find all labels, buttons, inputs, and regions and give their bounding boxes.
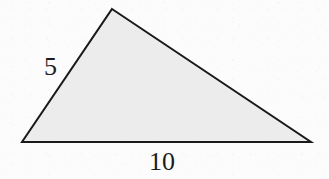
- triangle-shape: [22, 9, 311, 142]
- figure-canvas: 5 10: [0, 0, 329, 179]
- side-length-label-base: 10: [149, 149, 175, 175]
- side-length-label-left: 5: [44, 54, 57, 80]
